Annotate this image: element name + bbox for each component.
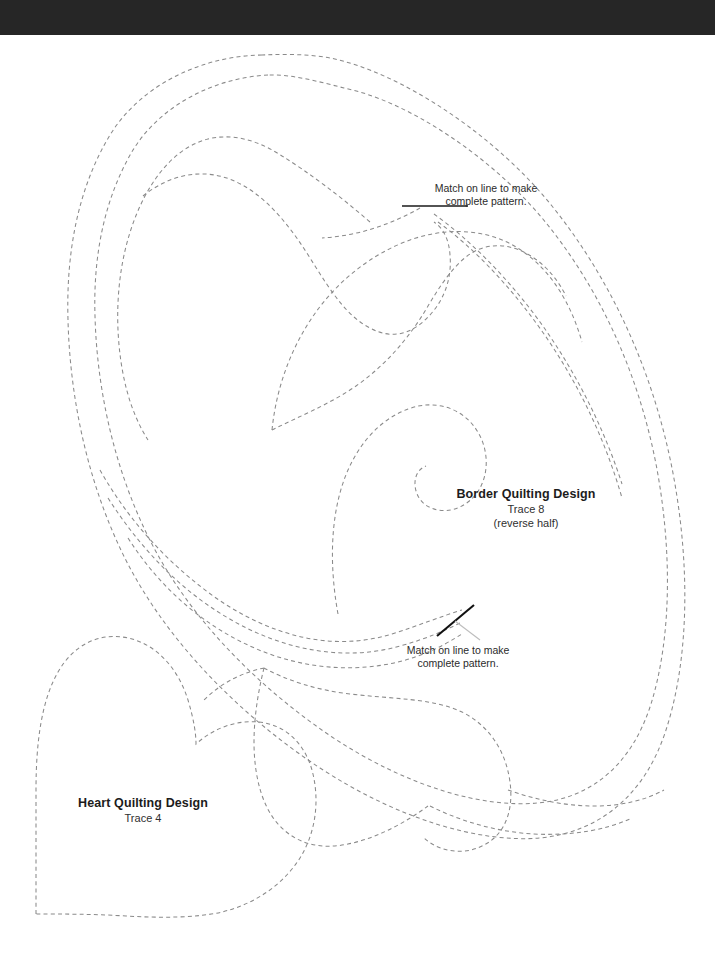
heart-design-trace: Trace 4 [53,811,233,825]
border-middle-lobe [272,232,582,430]
border-design-title: Border Quilting Design [436,486,616,502]
border-top-converge-line-c [322,208,420,238]
border-design-trace: Trace 8 [436,502,616,516]
match-note-top-line2: complete pattern. [396,195,576,208]
border-design-label: Border Quilting Design Trace 8 (reverse … [436,486,616,530]
border-lower-leaf-tail-upper [508,790,664,806]
match-note-bottom-line2: complete pattern. [368,657,548,670]
match-note-top: Match on line to make complete pattern. [396,182,576,207]
border-sweep-line-a [100,470,462,641]
border-design-note: (reverse half) [436,516,616,530]
border-sweep-line-b [108,498,462,653]
border-top-converge-line-b [438,222,622,498]
border-lower-leaf [264,668,511,851]
border-leaf-left-connector [204,668,264,700]
heart-design-label: Heart Quilting Design Trace 4 [53,795,233,825]
border-upper-lobe [118,137,370,440]
border-lower-leaf-inner [254,668,428,846]
heart-design-title: Heart Quilting Design [53,795,233,811]
border-middle-lobe-swoop [272,246,566,430]
heart-contour [36,636,316,917]
border-outer-contour-inner-echo [95,75,668,804]
quilting-pattern-page: Match on line to make complete pattern. … [0,0,715,961]
match-note-bottom-line1: Match on line to make [368,644,548,657]
match-tick-bottom-leader [455,621,480,640]
match-note-top-line1: Match on line to make [396,182,576,195]
match-note-bottom: Match on line to make complete pattern. [368,644,548,669]
